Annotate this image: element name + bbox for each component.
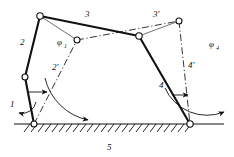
label-link-4-prime: 4' [188, 60, 196, 70]
link-1-crank-line [25, 77, 34, 124]
label-link-2: 2 [20, 37, 25, 47]
joint-ground-pivot-right [187, 121, 193, 127]
joint-coupler-prime-left [74, 37, 80, 43]
solid-links-group [25, 16, 190, 124]
label-phi4-subscript: 4 [216, 45, 219, 51]
label-link-4: 4 [159, 80, 164, 90]
label-link-3-prime: 3' [152, 9, 161, 19]
joint-crank-top-left [22, 74, 28, 80]
link1-motion-arc [19, 102, 36, 113]
kinematic-diagram-figure: 1 2 2' 3 3' 4 4' 5 φ 1 φ 4 [0, 0, 234, 157]
link1-motion-arrow-group [19, 102, 36, 113]
joint-ground-pivot-left [31, 121, 37, 127]
phi4-arc [165, 88, 224, 115]
linkage-drawing-canvas: 1 2 2' 3 3' 4 4' 5 φ 1 φ 4 [0, 0, 234, 157]
label-phi1: φ [57, 37, 62, 47]
joint-coupler-mid-right [136, 33, 142, 39]
phi1-angle-group [28, 78, 88, 120]
label-link-1: 1 [10, 99, 15, 109]
ground-hatching [24, 124, 191, 132]
link-3-line [40, 16, 139, 36]
phi1-arc [45, 78, 88, 120]
joint-coupler-left-top [37, 13, 43, 19]
joint-coupler-prime-right [176, 18, 182, 24]
label-link-2-prime: 2' [52, 62, 60, 72]
label-link-5: 5 [107, 142, 112, 152]
link-2-line [25, 16, 40, 77]
phi4-angle-group [165, 88, 224, 115]
thin-tie-right-line [139, 21, 179, 36]
label-link-3: 3 [84, 9, 90, 19]
label-phi4: φ [209, 39, 214, 49]
label-phi1-subscript: 1 [64, 43, 67, 49]
link-3-prime-line [77, 21, 179, 40]
link-2-prime-line [34, 40, 77, 124]
